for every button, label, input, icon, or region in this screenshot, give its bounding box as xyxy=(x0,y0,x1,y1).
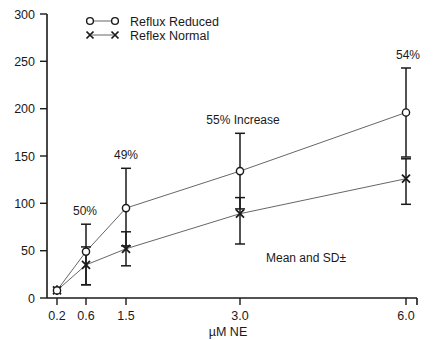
data-point-reflux-6-0 xyxy=(402,109,409,116)
x-tick-label-0-6: 0.6 xyxy=(77,309,94,323)
y-tick-label-0: 0 xyxy=(28,292,35,306)
markers-reflex-normal xyxy=(53,175,410,295)
legend-marker-circle-left xyxy=(87,18,94,25)
y-tick-label-150: 150 xyxy=(14,150,35,164)
errorbar-reflex-3-0 xyxy=(235,198,245,244)
annotation-49-percent: 49% xyxy=(114,148,138,162)
legend-label-reflux-reduced: Reflux Reduced xyxy=(130,15,219,29)
y-tick-label-200: 200 xyxy=(14,102,35,116)
y-axis-ticks xyxy=(40,14,47,298)
legend-marker-circle-right xyxy=(112,18,119,25)
y-tick-label-300: 300 xyxy=(14,8,35,22)
series-line-reflux-reduced xyxy=(57,113,406,291)
line-chart-canvas: 300 250 200 150 100 50 0 0.2 0.6 1.5 3.0… xyxy=(0,0,433,340)
percent-annotations: 50% 49% 55% Increase 54% xyxy=(73,48,420,218)
annotation-54-percent: 54% xyxy=(396,48,420,62)
annotation-55-percent-increase: 55% Increase xyxy=(206,113,280,127)
data-point-reflux-0-2 xyxy=(53,287,60,294)
y-axis-tick-labels: 300 250 200 150 100 50 0 xyxy=(14,8,35,306)
chart-figure: 300 250 200 150 100 50 0 0.2 0.6 1.5 3.0… xyxy=(0,0,433,340)
errorbars-reflex-normal xyxy=(57,159,411,295)
data-point-reflux-0-6 xyxy=(82,248,89,255)
legend-item-reflex-normal[interactable]: Reflex Normal xyxy=(87,29,210,43)
y-tick-label-50: 50 xyxy=(21,244,35,258)
x-tick-label-3-0: 3.0 xyxy=(231,309,248,323)
markers-reflux-reduced xyxy=(53,109,409,294)
annotation-50-percent: 50% xyxy=(73,204,97,218)
x-axis-title: µM NE xyxy=(209,325,247,339)
x-tick-label-0-2: 0.2 xyxy=(48,309,65,323)
legend-item-reflux-reduced[interactable]: Reflux Reduced xyxy=(87,15,219,29)
data-point-reflux-3-0 xyxy=(236,168,243,175)
y-tick-label-250: 250 xyxy=(14,55,35,69)
y-tick-label-100: 100 xyxy=(14,197,35,211)
axis-spines xyxy=(47,14,417,305)
legend-label-reflex-normal: Reflex Normal xyxy=(130,29,209,43)
x-tick-label-6-0: 6.0 xyxy=(397,309,414,323)
mean-and-sd-note: Mean and SD± xyxy=(266,251,346,265)
x-tick-label-1-5: 1.5 xyxy=(117,309,134,323)
series-line-reflex-normal xyxy=(57,179,406,291)
x-axis-ticks xyxy=(57,298,406,305)
errorbars-reflux-reduced xyxy=(57,68,411,295)
data-point-reflux-1-5 xyxy=(122,205,129,212)
chart-legend: Reflux Reduced Reflex Normal xyxy=(87,15,219,43)
x-axis-tick-labels: 0.2 0.6 1.5 3.0 6.0 xyxy=(48,309,414,323)
